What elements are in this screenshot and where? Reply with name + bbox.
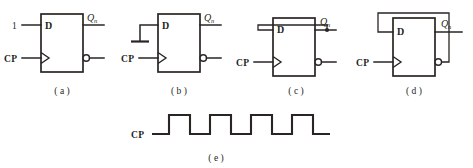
clock-edge-triangle-d: [393, 57, 401, 68]
clock-label-c: CP: [236, 58, 249, 68]
junction-dot-c: [325, 28, 329, 32]
qbar-bubble-b: [200, 55, 206, 61]
clock-edge-triangle-b: [158, 53, 166, 64]
waveform-signal-label: CP: [131, 130, 144, 140]
caption-b: ( b ): [171, 86, 187, 97]
clock-label-d: CP: [356, 58, 369, 68]
caption-d: ( d ): [406, 86, 422, 97]
logic-one-label-a: 1: [12, 21, 17, 31]
q-output-subscript-d: n: [448, 23, 451, 30]
caption-c: ( c ): [288, 86, 303, 97]
caption-e: ( e ): [208, 153, 223, 164]
caption-a: ( a ): [54, 86, 69, 97]
feedback-wire-d: [378, 13, 449, 62]
q-output-subscript-a: n: [94, 17, 97, 24]
q-output-subscript-b: n: [211, 17, 214, 24]
figure-b: D CP Q n ( b ): [121, 12, 221, 97]
clock-label-a: CP: [4, 54, 17, 64]
figure-a: 1 D CP Q n ( a ): [4, 12, 104, 97]
figure-sheet: 1 D CP Q n ( a ) D CP Q n ( b ): [0, 0, 473, 168]
q-output-subscript-c: n: [327, 21, 330, 28]
qbar-bubble-d: [435, 59, 441, 65]
d-input-wire-b: [140, 25, 158, 41]
clock-label-b: CP: [121, 54, 134, 64]
figure-d: D CP Q n ( d ): [356, 13, 462, 97]
d-pin-label-a: D: [45, 20, 52, 31]
clock-pulse-train: [152, 115, 330, 134]
figure-e-waveform: CP ( e ): [131, 115, 330, 164]
figure-c: D CP Q n ( c ): [236, 16, 336, 97]
d-pin-label-c: D: [277, 24, 284, 35]
clock-edge-triangle-c: [273, 57, 281, 68]
qbar-bubble-c: [315, 59, 321, 65]
clock-edge-triangle-a: [41, 53, 49, 64]
d-pin-label-d: D: [397, 26, 404, 37]
d-pin-label-b: D: [162, 20, 169, 31]
qbar-bubble-a: [83, 55, 89, 61]
